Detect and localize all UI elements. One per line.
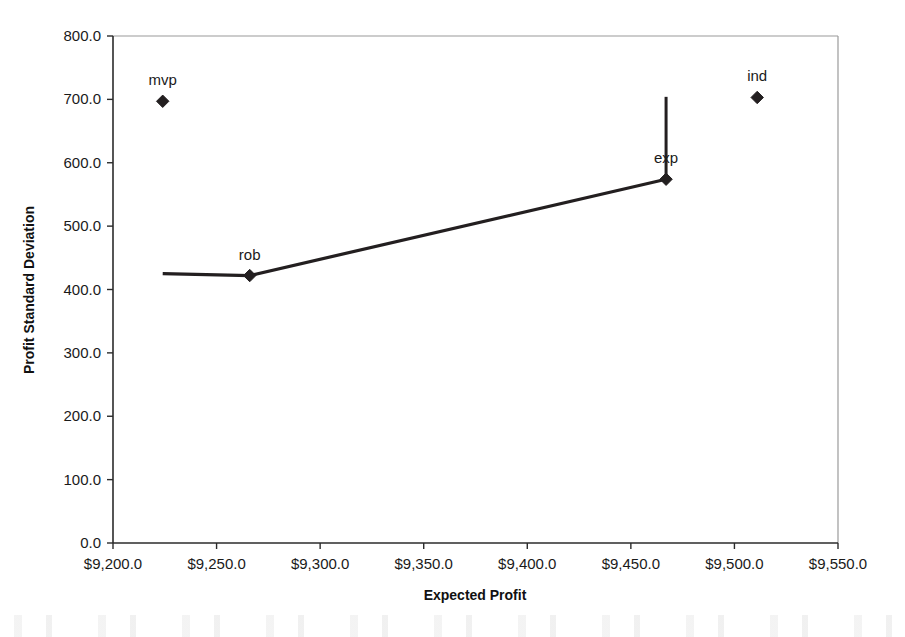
- data-point-label-ind: ind: [747, 67, 767, 84]
- x-tick-label: $9,500.0: [705, 555, 763, 572]
- data-point-marker-ind: [751, 91, 763, 103]
- y-axis-ticks: 0.0100.0200.0300.0400.0500.0600.0700.080…: [63, 27, 113, 551]
- x-tick-label: $9,450.0: [602, 555, 660, 572]
- x-tick-label: $9,300.0: [291, 555, 349, 572]
- x-tick-label: $9,250.0: [187, 555, 245, 572]
- x-tick-label: $9,400.0: [498, 555, 556, 572]
- y-tick-label: 500.0: [63, 217, 101, 234]
- x-axis-ticks: $9,200.0$9,250.0$9,300.0$9,350.0$9,400.0…: [84, 543, 867, 572]
- y-tick-label: 200.0: [63, 407, 101, 424]
- y-tick-label: 100.0: [63, 471, 101, 488]
- y-tick-label: 800.0: [63, 27, 101, 44]
- x-axis-title: Expected Profit: [424, 587, 527, 603]
- x-tick-label: $9,200.0: [84, 555, 142, 572]
- scan-artifact-band: [0, 615, 905, 637]
- y-tick-label: 700.0: [63, 90, 101, 107]
- data-points-group: mvprobexpind: [149, 67, 768, 281]
- y-tick-label: 600.0: [63, 154, 101, 171]
- y-axis-title: Profit Standard Deviation: [21, 206, 37, 374]
- data-point-marker-exp: [660, 173, 672, 185]
- data-point-marker-rob: [244, 269, 256, 281]
- data-point-label-rob: rob: [239, 246, 261, 263]
- chart-figure: 0.0100.0200.0300.0400.0500.0600.0700.080…: [0, 0, 905, 637]
- y-tick-label: 400.0: [63, 281, 101, 298]
- data-point-marker-mvp: [157, 95, 169, 107]
- x-tick-label: $9,350.0: [395, 555, 453, 572]
- plot-frame: [113, 36, 838, 543]
- data-point-label-exp: exp: [654, 149, 678, 166]
- y-tick-label: 300.0: [63, 344, 101, 361]
- x-tick-label: $9,550.0: [809, 555, 867, 572]
- scatter-plot-canvas: 0.0100.0200.0300.0400.0500.0600.0700.080…: [0, 0, 905, 637]
- data-point-label-mvp: mvp: [149, 71, 177, 88]
- y-tick-label: 0.0: [80, 534, 101, 551]
